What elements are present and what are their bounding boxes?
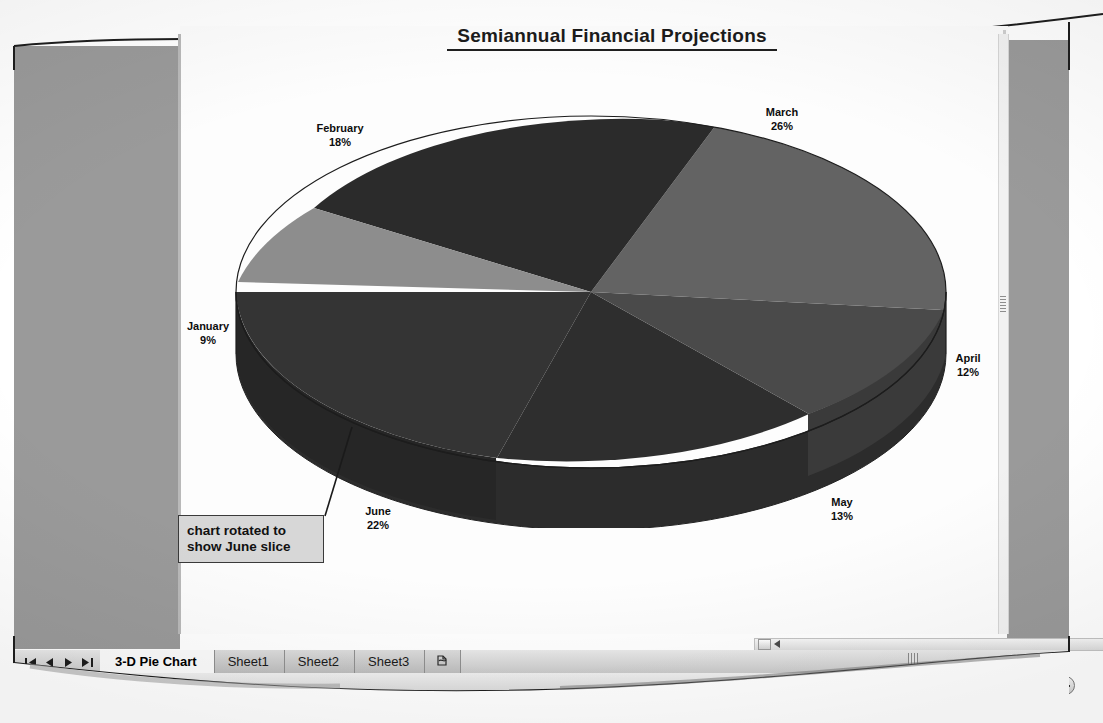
previous-sheet-icon[interactable] [42, 654, 57, 670]
page-break-preview-icon[interactable] [980, 677, 999, 693]
status-text: Ready [26, 677, 64, 692]
pie-chart[interactable] [196, 96, 986, 528]
sheet-tab-label: Sheet1 [228, 654, 269, 669]
annotation-line-1: chart rotated to [187, 523, 286, 538]
status-separator [96, 674, 97, 694]
data-label-may: May13% [802, 496, 882, 524]
insert-worksheet-icon [435, 653, 450, 670]
zoom-out-button[interactable] [1056, 676, 1075, 695]
sheet-tab-sheet1[interactable]: Sheet1 [215, 650, 285, 673]
data-label-january: January9% [168, 320, 248, 348]
data-label-april: April12% [928, 352, 1008, 380]
sheet-tab-sheet3[interactable]: Sheet3 [355, 650, 425, 673]
sheet-tabs: 3-D Pie Chart Sheet1 Sheet2 Sheet3 [100, 650, 461, 673]
last-sheet-icon[interactable] [80, 654, 95, 670]
sheet-tab-label: Sheet3 [368, 654, 409, 669]
data-label-february: February18% [300, 122, 380, 150]
data-label-june: June22% [338, 505, 418, 533]
sheet-tab-3d-pie-chart[interactable]: 3-D Pie Chart [100, 650, 215, 673]
data-label-march: March26% [742, 106, 822, 134]
status-bar [14, 673, 1069, 697]
vertical-scrollbar[interactable] [998, 34, 1009, 634]
insert-worksheet-button[interactable] [425, 650, 461, 673]
first-sheet-icon[interactable] [23, 654, 38, 670]
sheet-tab-sheet2[interactable]: Sheet2 [285, 650, 355, 673]
page-gutter-right [1007, 40, 1069, 652]
page-layout-view-icon[interactable] [959, 677, 978, 693]
view-mode-buttons [938, 676, 1002, 693]
horizontal-scrollbar-thumb[interactable] [758, 639, 771, 650]
annotation-callout: chart rotated to show June slice [178, 515, 324, 563]
sheet-navigation-buttons [20, 653, 98, 671]
annotation-line-2: show June slice [187, 539, 291, 554]
scrollbar-grip[interactable] [1000, 296, 1006, 312]
scroll-left-arrow-icon[interactable] [774, 640, 780, 648]
chart-title: Semiannual Financial Projections [447, 25, 777, 47]
sheet-tab-label: Sheet2 [298, 654, 339, 669]
chart-title-underline [447, 49, 777, 51]
scanned-book-page: Semiannual Financial Projections [0, 0, 1103, 723]
normal-view-icon[interactable] [938, 677, 957, 693]
annotation-callout-text: chart rotated to show June slice [179, 523, 299, 556]
sheet-tab-label: 3-D Pie Chart [115, 654, 197, 669]
next-sheet-icon[interactable] [61, 654, 76, 670]
tabbar-split-grip[interactable] [908, 653, 918, 664]
pie-chart-graphic [196, 96, 986, 528]
page-gutter-left [14, 46, 180, 649]
zoom-level-label[interactable]: 79% [1008, 677, 1034, 692]
